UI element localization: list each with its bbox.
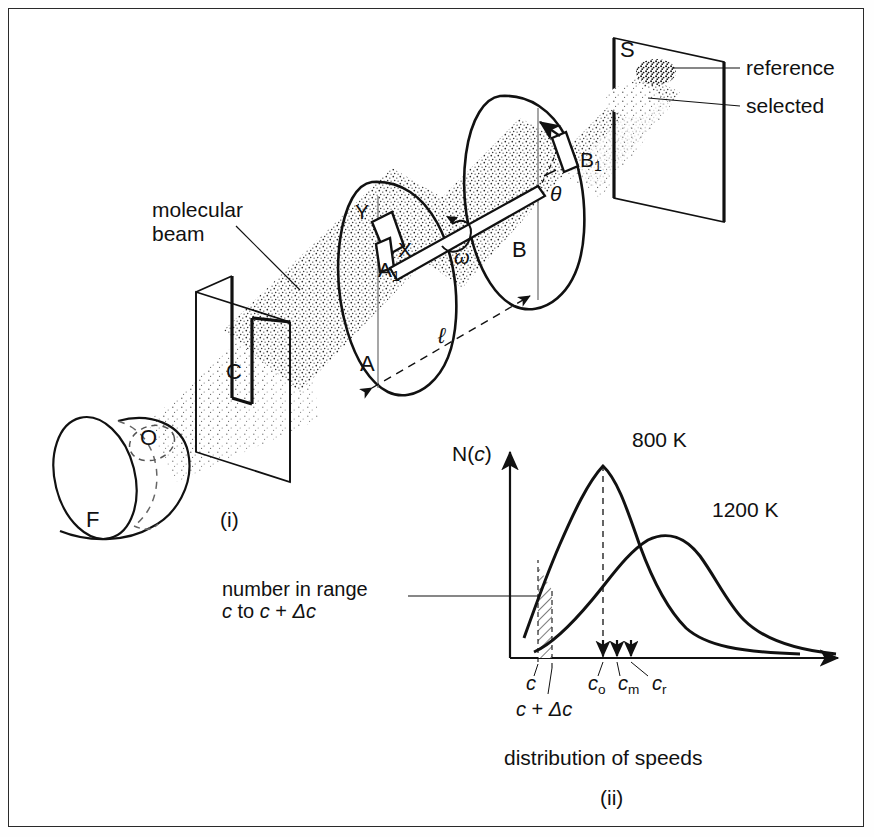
selected-spot-label: selected <box>746 94 824 118</box>
oven-hole-label-O: O <box>140 426 157 451</box>
molecular-beam-label: molecular beam <box>152 198 243 245</box>
reference-spot-label: reference <box>746 56 835 80</box>
figure-root: molecular beam C F O A B Y X A1 B1 θ ω ℓ… <box>0 0 874 837</box>
theta-label: θ <box>550 182 561 206</box>
tick-label-c-m: cm <box>618 672 639 697</box>
disc-a-label: A <box>360 352 375 377</box>
series-label-800K: 800 K <box>632 428 687 452</box>
slit-edge-y-label: Y <box>355 200 369 224</box>
oven-label-F: F <box>86 508 99 533</box>
diagram-canvas <box>0 0 874 837</box>
collimator-label: C <box>226 360 242 385</box>
slit-a1-label: A1 <box>378 258 400 284</box>
curve-1200K <box>534 536 836 654</box>
tick-label-c-r: cr <box>652 672 667 697</box>
speed-markers <box>603 640 631 656</box>
speed-distribution-plot <box>408 452 838 694</box>
tick-label-c-plus-delta: c + Δc <box>516 698 572 720</box>
disc-separation-dimension <box>372 296 530 388</box>
panel-i-caption: (i) <box>220 508 239 532</box>
series-label-1200K: 1200 K <box>712 498 779 522</box>
band-annotation: number in range c to c + Δc <box>222 578 368 623</box>
panel-ii-title: distribution of speeds <box>504 746 702 770</box>
tick-label-c: c <box>526 672 536 694</box>
selected-spot <box>606 84 658 116</box>
slit-edge-x-label: X <box>398 238 412 262</box>
curve-800K <box>524 466 800 654</box>
disc-b-label: B <box>512 238 527 263</box>
y-axis-label: N(c) <box>452 442 492 466</box>
tick-label-c-o: co <box>588 672 606 697</box>
slit-b1-label: B1 <box>580 148 602 174</box>
reference-spot <box>636 59 676 85</box>
screen-label-S: S <box>620 38 635 63</box>
panel-ii-caption: (ii) <box>600 786 623 810</box>
separation-label: ℓ <box>438 324 445 349</box>
omega-label: ω <box>454 246 470 268</box>
